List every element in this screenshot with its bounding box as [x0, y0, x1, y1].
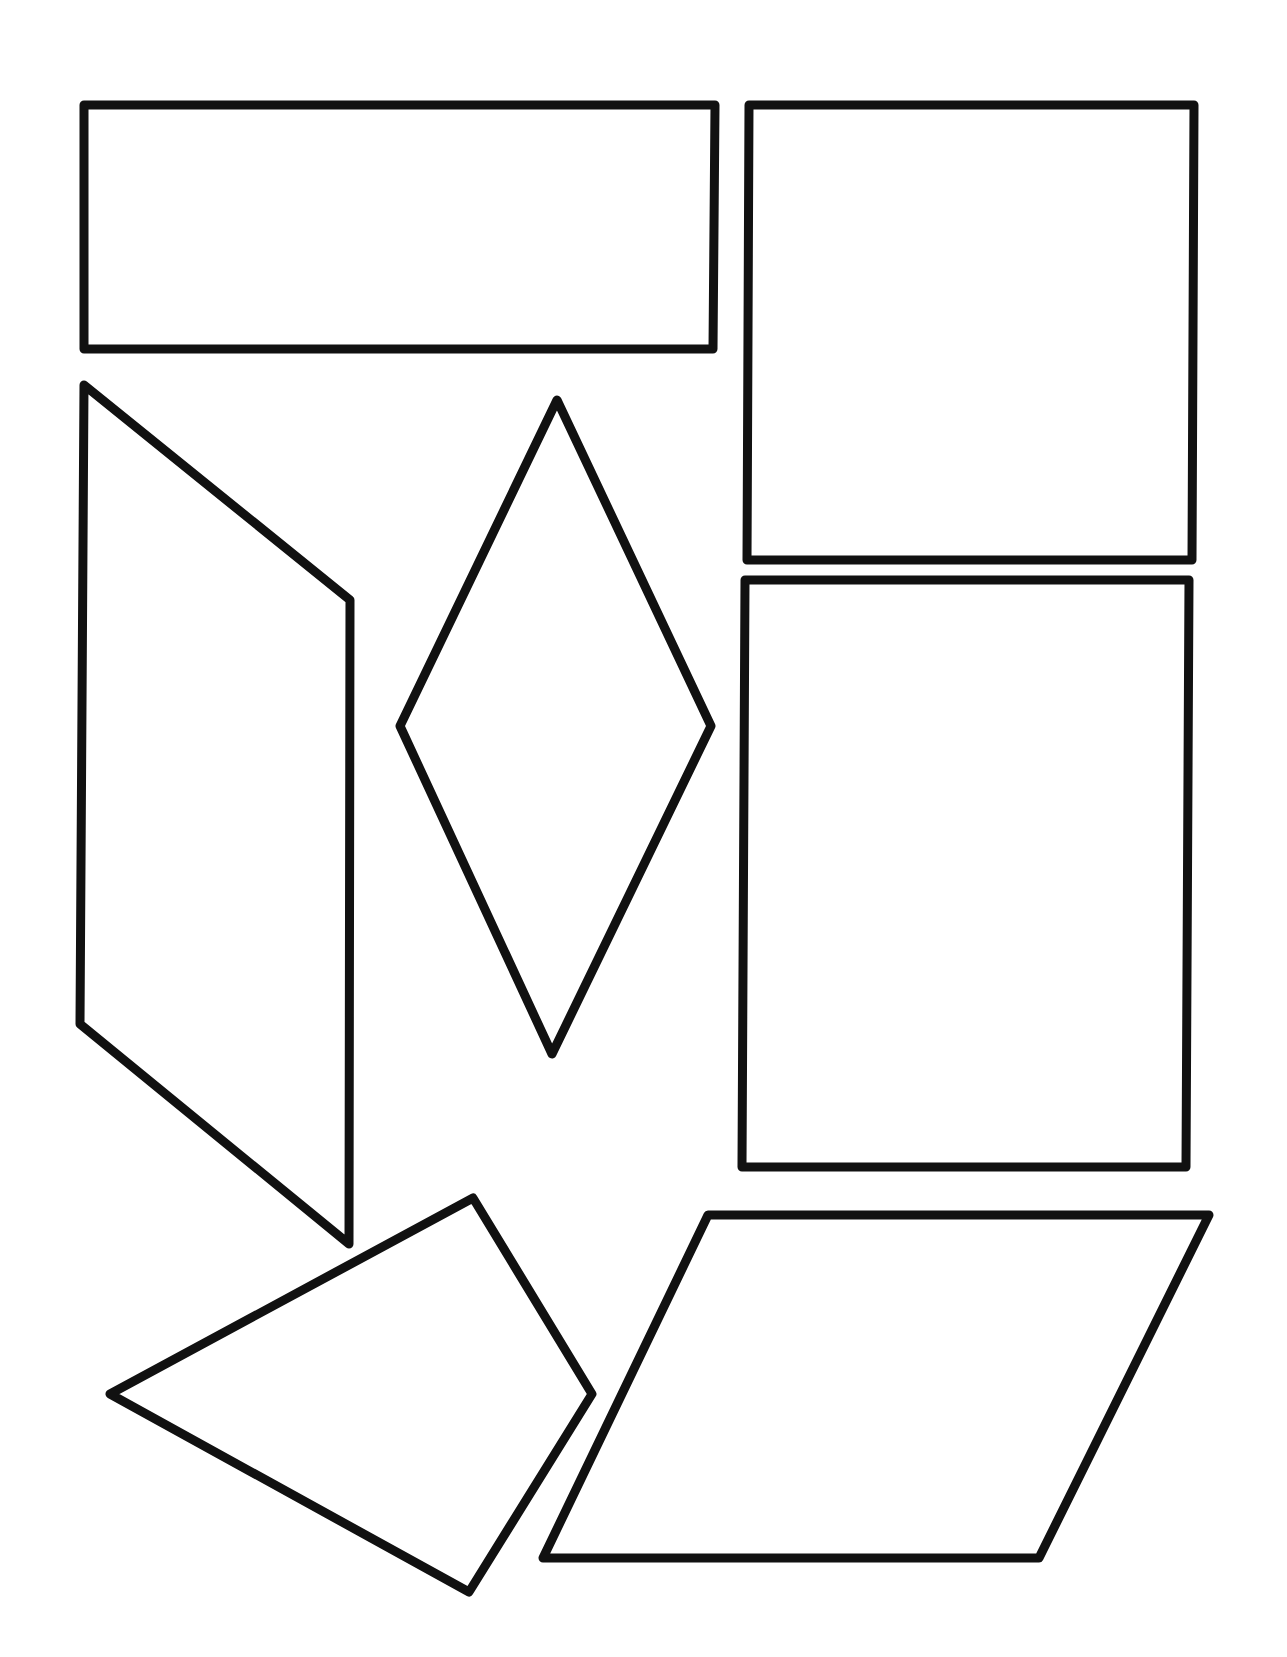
tall-rectangle-lower-right	[742, 580, 1189, 1167]
tall-rectangle-upper-right	[747, 105, 1194, 560]
shapes-diagram	[0, 0, 1287, 1657]
rhombus-center	[400, 400, 711, 1054]
parallelogram-bottom-right	[543, 1215, 1209, 1558]
parallelogram-left	[80, 385, 350, 1244]
wide-rectangle	[84, 105, 715, 349]
kite-bottom-left	[110, 1198, 592, 1592]
